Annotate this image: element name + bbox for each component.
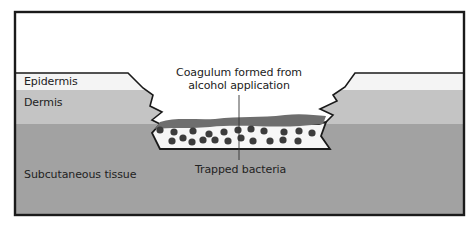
label-subcutaneous: Subcutaneous tissue (24, 168, 136, 181)
label-bacteria: Trapped bacteria (195, 163, 286, 176)
label-coagulum-line2: alcohol application (169, 79, 309, 92)
label-dermis: Dermis (24, 96, 62, 109)
label-coagulum-line1: Coagulum formed from (169, 66, 309, 79)
wound-diagram (0, 0, 476, 227)
label-coagulum: Coagulum formed from alcohol application (169, 66, 309, 92)
label-epidermis: Epidermis (24, 75, 78, 88)
